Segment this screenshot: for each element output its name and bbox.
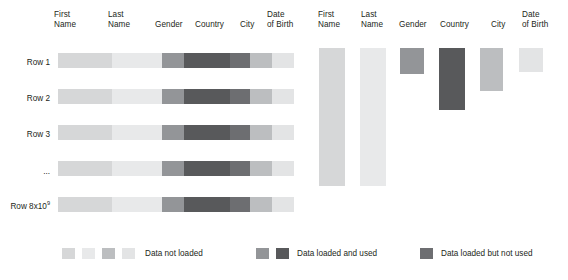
cell-first-name — [58, 53, 112, 68]
cell-city — [230, 197, 250, 212]
cell-last-name — [112, 53, 162, 68]
row-label-3: Row 3 — [0, 130, 50, 140]
cell-city — [230, 53, 250, 68]
column-bar-last-name — [360, 48, 386, 186]
legend-label-loaded-used: Data loaded and used — [297, 248, 377, 259]
right-panel: First Name Last Name Gender Country City… — [300, 0, 568, 235]
cell-last-name — [112, 161, 162, 176]
legend: Data not loaded Data loaded and used Dat… — [0, 248, 568, 268]
legend-swatch-not-loaded-1 — [62, 248, 75, 259]
cell-city — [230, 89, 250, 104]
cell-gender — [162, 197, 184, 212]
cell-city — [230, 125, 250, 140]
column-header-country: Country — [195, 20, 235, 30]
row-label-ellipsis: ... — [0, 167, 50, 177]
column-header-first-name: First Name — [54, 10, 90, 31]
cell-last-name — [112, 197, 162, 212]
column-bar-gender — [400, 48, 424, 74]
cell-country — [184, 89, 230, 104]
row-label-text: Row 8x10 — [10, 202, 46, 211]
row-label-text: Row 2 — [27, 94, 50, 103]
row-label-text: Row 3 — [27, 130, 50, 139]
cell-date-of-birth — [272, 89, 294, 104]
cell-gender — [162, 53, 184, 68]
cell-gap — [250, 197, 272, 212]
cell-gap — [250, 53, 272, 68]
column-bar-date-of-birth — [519, 48, 543, 72]
cell-gap — [250, 89, 272, 104]
legend-swatch-loaded-used-1 — [256, 248, 269, 259]
legend-swatch-not-loaded-2 — [82, 248, 95, 259]
row-label-exponent: 9 — [47, 200, 50, 206]
cell-gender — [162, 161, 184, 176]
column-header-last-name: Last Name — [361, 10, 397, 31]
cell-gender — [162, 89, 184, 104]
cell-last-name — [112, 125, 162, 140]
column-header-city: City — [491, 20, 515, 30]
row-label-last: Row 8x109 — [0, 202, 50, 212]
column-header-date-of-birth: Date of Birth — [522, 10, 562, 31]
row-label-text: Row 1 — [27, 58, 50, 67]
cell-last-name — [112, 89, 162, 104]
cell-gap — [250, 161, 272, 176]
column-header-gender: Gender — [399, 20, 435, 30]
column-bar-city — [480, 48, 503, 91]
cell-date-of-birth — [272, 53, 294, 68]
row-label-1: Row 1 — [0, 58, 50, 68]
cell-country — [184, 197, 230, 212]
column-header-country: Country — [440, 20, 480, 30]
legend-swatch-loaded-used-2 — [276, 248, 289, 259]
cell-date-of-birth — [272, 161, 294, 176]
column-bar-country — [439, 48, 465, 110]
legend-swatch-not-loaded-3 — [102, 248, 115, 259]
legend-swatch-loaded-unused-1 — [420, 248, 433, 259]
legend-swatch-not-loaded-4 — [122, 248, 135, 259]
legend-label-loaded-unused: Data loaded but not used — [441, 248, 533, 259]
cell-gender — [162, 125, 184, 140]
cell-date-of-birth — [272, 197, 294, 212]
cell-first-name — [58, 197, 112, 212]
column-header-first-name: First Name — [318, 10, 354, 31]
row-label-text: ... — [43, 167, 50, 176]
cell-date-of-birth — [272, 125, 294, 140]
left-panel: First Name Last Name Gender Country City… — [0, 0, 300, 235]
cell-first-name — [58, 89, 112, 104]
cell-first-name — [58, 125, 112, 140]
cell-gap — [250, 125, 272, 140]
cell-city — [230, 161, 250, 176]
cell-first-name — [58, 161, 112, 176]
legend-label-not-loaded: Data not loaded — [145, 248, 203, 259]
row-label-2: Row 2 — [0, 94, 50, 104]
column-bar-first-name — [319, 48, 345, 186]
cell-country — [184, 125, 230, 140]
cell-country — [184, 53, 230, 68]
column-header-city: City — [240, 20, 264, 30]
cell-country — [184, 161, 230, 176]
column-header-last-name: Last Name — [108, 10, 144, 31]
column-header-gender: Gender — [155, 20, 191, 30]
